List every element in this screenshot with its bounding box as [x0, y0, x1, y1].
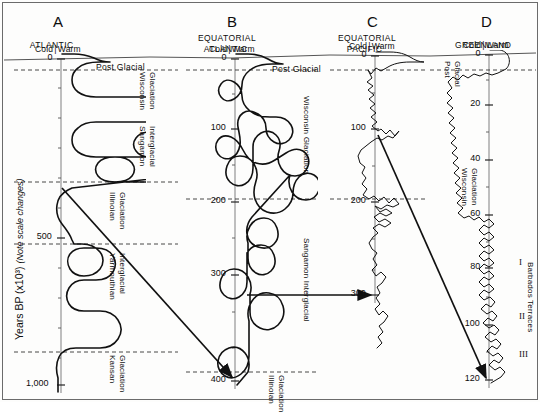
- warm-label: Warm: [372, 41, 395, 51]
- cold-warm-label-A: Cold|Warm: [35, 45, 81, 54]
- panel-letter-C: C: [367, 14, 378, 29]
- stage-label-D-0-0: Post: [443, 61, 451, 78]
- cold-warm-divider: |: [228, 44, 230, 54]
- cold-warm-divider: |: [54, 44, 56, 54]
- barbados-terraces-label: Barbados Terraces: [526, 262, 534, 332]
- tick-label-B-300: 300: [211, 269, 226, 278]
- tick-label-A-500: 500: [37, 232, 52, 241]
- warm-label: Warm: [232, 44, 255, 54]
- cold-label: Cold: [209, 44, 227, 54]
- stage-label-A-4-0: Kansan: [108, 355, 116, 383]
- present-datum-line: [4, 53, 536, 60]
- cold-label: Cold: [35, 44, 53, 54]
- stage-label-A-2-1: Glaciation: [118, 192, 126, 230]
- stage-label-D-0-1: Glacial: [453, 61, 461, 87]
- tick-label-B-100: 100: [211, 123, 226, 132]
- tick-label-D-100: 100: [465, 319, 480, 328]
- panel-letter-D: D: [481, 14, 492, 29]
- barbados-terrace-numeral-III: III: [519, 350, 528, 359]
- y-axis-label: Years BP (x10³) (Note scale changes): [14, 178, 25, 340]
- tick-label-B-200: 200: [211, 196, 226, 205]
- cold-warm-divider: |: [482, 40, 484, 50]
- stage-label-B-2-1: Glaciation: [277, 375, 285, 413]
- tick-label-D-60: 60: [470, 209, 480, 218]
- stage-label-B-2-0: Illinoian: [267, 375, 275, 404]
- stage-label-B-1-0: Sangamon Interglacial: [302, 238, 310, 322]
- tick-label-D-20: 20: [470, 99, 480, 108]
- warm-label: Warm: [58, 44, 81, 54]
- tick-label-D-40: 40: [470, 154, 480, 163]
- barbados-terrace-numeral-I: I: [519, 258, 522, 267]
- stage-label-A-0-1: Glaciation: [148, 72, 156, 110]
- cold-label: Cold: [463, 40, 481, 50]
- barbados-terrace-numeral-II: II: [519, 312, 525, 321]
- stage-label-A-0-0: Wisconsin: [138, 72, 146, 110]
- isotope-curve-C: [358, 52, 424, 348]
- stage-label-A-1-1: Interglacial: [148, 126, 156, 167]
- cold-label: Cold: [349, 41, 367, 51]
- tick-label-C-200: 200: [351, 196, 366, 205]
- stage-label-D-1-1: Glaciation: [470, 168, 478, 206]
- tick-label-A-0: 0: [48, 53, 53, 62]
- stage-label-D-1-0: Wisconsin: [460, 168, 468, 206]
- warm-label: Warm: [486, 40, 509, 50]
- stage-label-A-2-0: Illinoian: [108, 192, 116, 221]
- y-axis-label-note: (Note scale changes): [15, 178, 25, 263]
- post-glacial-label-A: Post Glacial: [96, 63, 145, 72]
- cold-warm-label-D: Cold|Warm: [463, 41, 509, 50]
- tick-label-A-1,000: 1,000: [26, 379, 49, 388]
- tick-label-D-120: 120: [465, 374, 480, 383]
- tick-label-D-0: 0: [476, 49, 481, 58]
- y-axis-label-main: Years BP (x10³): [13, 266, 25, 340]
- post-glacial-label-B: Post Glacial: [272, 65, 321, 74]
- cold-warm-divider: |: [368, 41, 370, 51]
- cold-warm-label-B: Cold|Warm: [209, 45, 255, 54]
- cold-warm-label-C: Cold|Warm: [349, 42, 395, 51]
- panel-letter-B: B: [227, 14, 238, 29]
- panel-title-B-0: EQUATORIAL: [198, 34, 256, 43]
- tick-label-C-100: 100: [351, 123, 366, 132]
- stage-label-A-3-0: Yarmouthian: [108, 253, 116, 300]
- tick-label-D-80: 80: [470, 262, 480, 271]
- stage-label-A-4-1: Glaciation: [118, 355, 126, 393]
- tick-label-C-300: 300: [351, 289, 366, 298]
- panel-letter-A: A: [53, 14, 64, 29]
- stage-label-A-1-0: Sangamon: [138, 126, 146, 166]
- tick-label-B-400: 400: [211, 375, 226, 384]
- stage-label-B-0-0: Wisconsin Glaciation: [302, 96, 310, 174]
- stage-label-A-3-1: Interglacial: [118, 253, 126, 294]
- tick-label-B-0: 0: [222, 53, 227, 62]
